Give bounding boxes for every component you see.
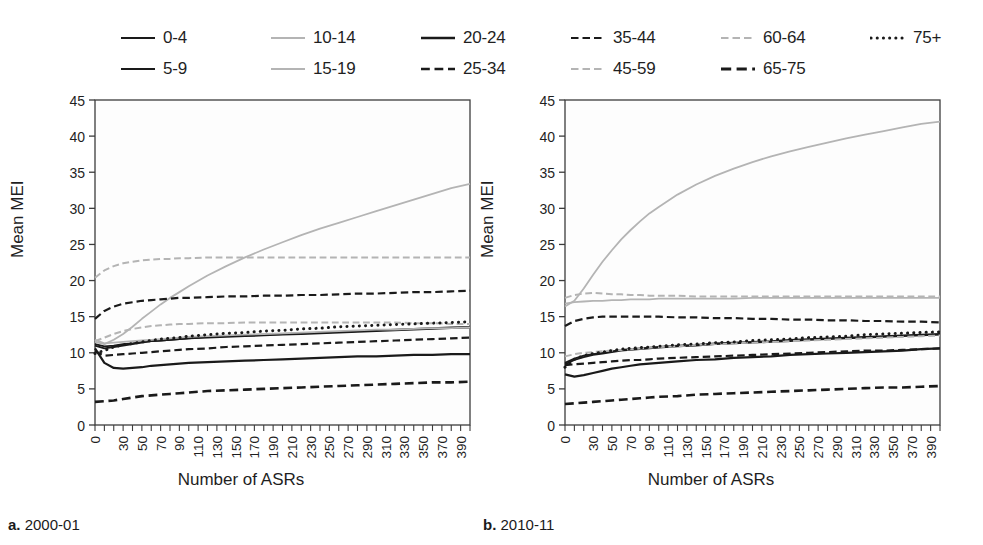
svg-text:5: 5 xyxy=(547,381,555,397)
svg-text:350: 350 xyxy=(886,436,901,459)
legend-swatch-solid-icon xyxy=(270,31,306,45)
svg-text:250: 250 xyxy=(792,436,807,459)
svg-text:15: 15 xyxy=(69,309,85,325)
svg-text:350: 350 xyxy=(416,436,431,459)
legend-label: 35-44 xyxy=(613,28,655,48)
svg-text:150: 150 xyxy=(699,436,714,459)
svg-text:10: 10 xyxy=(539,345,555,361)
svg-text:290: 290 xyxy=(360,436,375,459)
svg-text:390: 390 xyxy=(454,436,469,459)
svg-text:35: 35 xyxy=(69,165,85,181)
svg-text:30: 30 xyxy=(116,436,131,451)
plot-area-a: 0510152025303540450305070901101301501701… xyxy=(2,88,480,488)
svg-text:310: 310 xyxy=(379,436,394,459)
plot-area-b: 0510152025303540450305070901101301501701… xyxy=(472,88,950,488)
legend-swatch-dashed-icon xyxy=(720,31,756,45)
svg-text:210: 210 xyxy=(285,436,300,459)
svg-text:270: 270 xyxy=(811,436,826,459)
svg-text:45: 45 xyxy=(69,93,85,109)
panel-caption-b-text: 2010-11 xyxy=(496,516,554,533)
svg-text:110: 110 xyxy=(661,436,676,458)
legend-item-0-4[interactable]: 0-4 xyxy=(120,28,270,48)
panel-caption-a-text: 2000-01 xyxy=(21,516,80,533)
svg-text:25: 25 xyxy=(539,237,555,253)
svg-text:0: 0 xyxy=(558,436,573,444)
svg-text:390: 390 xyxy=(924,436,939,459)
legend-item-20-24[interactable]: 20-24 xyxy=(420,28,570,48)
legend-item-65-75[interactable]: 65-75 xyxy=(720,59,870,79)
legend-item-35-44[interactable]: 35-44 xyxy=(570,28,720,48)
svg-text:70: 70 xyxy=(154,436,169,451)
svg-text:0: 0 xyxy=(547,418,555,434)
svg-text:50: 50 xyxy=(605,436,620,451)
svg-text:30: 30 xyxy=(586,436,601,451)
panel-caption-b-marker: b. xyxy=(483,516,496,533)
svg-text:70: 70 xyxy=(624,436,639,451)
svg-text:40: 40 xyxy=(69,129,85,145)
legend-label: 5-9 xyxy=(163,59,187,79)
svg-text:170: 170 xyxy=(247,436,262,459)
svg-text:330: 330 xyxy=(397,436,412,459)
svg-text:30: 30 xyxy=(539,201,555,217)
legend-swatch-solid-icon xyxy=(120,31,156,45)
chart-panel-b: Mean MEI 0510152025303540450305070901101… xyxy=(472,88,950,498)
svg-text:90: 90 xyxy=(642,436,657,451)
panel-caption-a: a. 2000-01 xyxy=(8,516,80,533)
svg-text:130: 130 xyxy=(680,436,695,459)
legend-item-5-9[interactable]: 5-9 xyxy=(120,59,270,79)
legend-label: 75+ xyxy=(913,28,941,48)
legend-swatch-dotted-icon xyxy=(870,31,906,45)
legend-swatch-dashed-icon xyxy=(570,62,606,76)
legend-swatch-dashed-icon xyxy=(720,62,756,76)
svg-text:20: 20 xyxy=(69,273,85,289)
legend-label: 10-14 xyxy=(313,28,355,48)
legend-grid: 0-45-910-1415-1920-2425-3435-4445-5960-6… xyxy=(120,22,910,84)
svg-text:30: 30 xyxy=(69,201,85,217)
svg-text:10: 10 xyxy=(69,345,85,361)
svg-text:370: 370 xyxy=(905,436,920,459)
legend-swatch-solid-icon xyxy=(420,31,456,45)
svg-text:50: 50 xyxy=(135,436,150,451)
figure-container: 0-45-910-1415-1920-2425-3435-4445-5960-6… xyxy=(0,0,983,545)
svg-text:370: 370 xyxy=(435,436,450,459)
svg-text:170: 170 xyxy=(717,436,732,459)
svg-text:90: 90 xyxy=(172,436,187,451)
svg-text:5: 5 xyxy=(77,381,85,397)
svg-text:290: 290 xyxy=(830,436,845,459)
svg-text:45: 45 xyxy=(539,93,555,109)
svg-text:25: 25 xyxy=(69,237,85,253)
svg-text:20: 20 xyxy=(539,273,555,289)
svg-text:270: 270 xyxy=(341,436,356,459)
svg-text:15: 15 xyxy=(539,309,555,325)
legend-item-45-59[interactable]: 45-59 xyxy=(570,59,720,79)
chart-legend: 0-45-910-1415-1920-2425-3435-4445-5960-6… xyxy=(120,22,910,84)
svg-text:35: 35 xyxy=(539,165,555,181)
legend-swatch-dashed-icon xyxy=(420,62,456,76)
legend-label: 60-64 xyxy=(763,28,805,48)
svg-text:150: 150 xyxy=(229,436,244,459)
svg-text:190: 190 xyxy=(266,436,281,459)
svg-text:110: 110 xyxy=(191,436,206,458)
svg-text:230: 230 xyxy=(304,436,319,459)
legend-item-75plus[interactable]: 75+ xyxy=(870,28,983,48)
legend-item-15-19[interactable]: 15-19 xyxy=(270,59,420,79)
legend-label: 0-4 xyxy=(163,28,187,48)
svg-text:130: 130 xyxy=(210,436,225,459)
svg-text:0: 0 xyxy=(88,436,103,444)
svg-text:330: 330 xyxy=(867,436,882,459)
svg-text:210: 210 xyxy=(755,436,770,459)
panel-caption-a-marker: a. xyxy=(8,516,21,533)
legend-item-10-14[interactable]: 10-14 xyxy=(270,28,420,48)
legend-swatch-dashed-icon xyxy=(570,31,606,45)
svg-text:0: 0 xyxy=(77,418,85,434)
legend-label: 45-59 xyxy=(613,59,655,79)
legend-label: 15-19 xyxy=(313,59,355,79)
legend-item-25-34[interactable]: 25-34 xyxy=(420,59,570,79)
legend-item-60-64[interactable]: 60-64 xyxy=(720,28,870,48)
svg-text:250: 250 xyxy=(322,436,337,459)
legend-label: 25-34 xyxy=(463,59,505,79)
svg-text:40: 40 xyxy=(539,129,555,145)
svg-text:310: 310 xyxy=(849,436,864,459)
x-axis-label-a: Number of ASRs xyxy=(2,470,480,490)
x-axis-label-b: Number of ASRs xyxy=(472,470,950,490)
